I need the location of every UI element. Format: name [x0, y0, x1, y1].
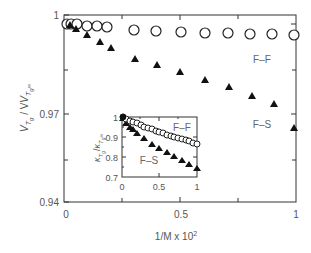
- y-tick-label-097: 0.97: [40, 109, 60, 120]
- inset-y-tick-09: 0.9: [105, 133, 118, 143]
- x-tick-label-05: 0.5: [174, 209, 188, 220]
- inset-x-tick-0: 0: [119, 182, 124, 192]
- inset-y-axis-label: κTg/κTg∞: [92, 134, 106, 162]
- series-ff-markers: [62, 19, 299, 40]
- inset-y-tick-1: 1: [113, 113, 118, 123]
- y-tick-label-1: 1: [53, 10, 59, 21]
- inset-series-label-ff: F–F: [173, 122, 191, 133]
- inset-x-tick-05: 0.5: [153, 182, 166, 192]
- series-label-fs: F–S: [253, 119, 272, 130]
- y-axis-label: VTg / VVTg∞: [19, 84, 34, 132]
- x-axis-label: 1/M x 102: [155, 230, 197, 242]
- inset-series-label-fs: F–S: [140, 155, 159, 166]
- inset-y-tick-07: 0.7: [105, 173, 118, 183]
- chart: 1 0.97 0.94 0 0.5 1 1/M x 102 VTg / VVTg…: [0, 0, 311, 253]
- x-tick-label-1: 1: [293, 209, 299, 220]
- x-tick-label-0: 0: [63, 209, 69, 220]
- y-tick-label-094: 0.94: [40, 197, 60, 208]
- inset-plot: 1 0.9 0.8 0.7 0 0.5 1 κTg/κTg∞ F–F F–S: [92, 113, 201, 192]
- inset-x-tick-1: 1: [194, 182, 199, 192]
- inset-y-tick-08: 0.8: [105, 153, 118, 163]
- series-label-ff: F–F: [253, 54, 271, 65]
- inset-origin-marker: [120, 114, 126, 120]
